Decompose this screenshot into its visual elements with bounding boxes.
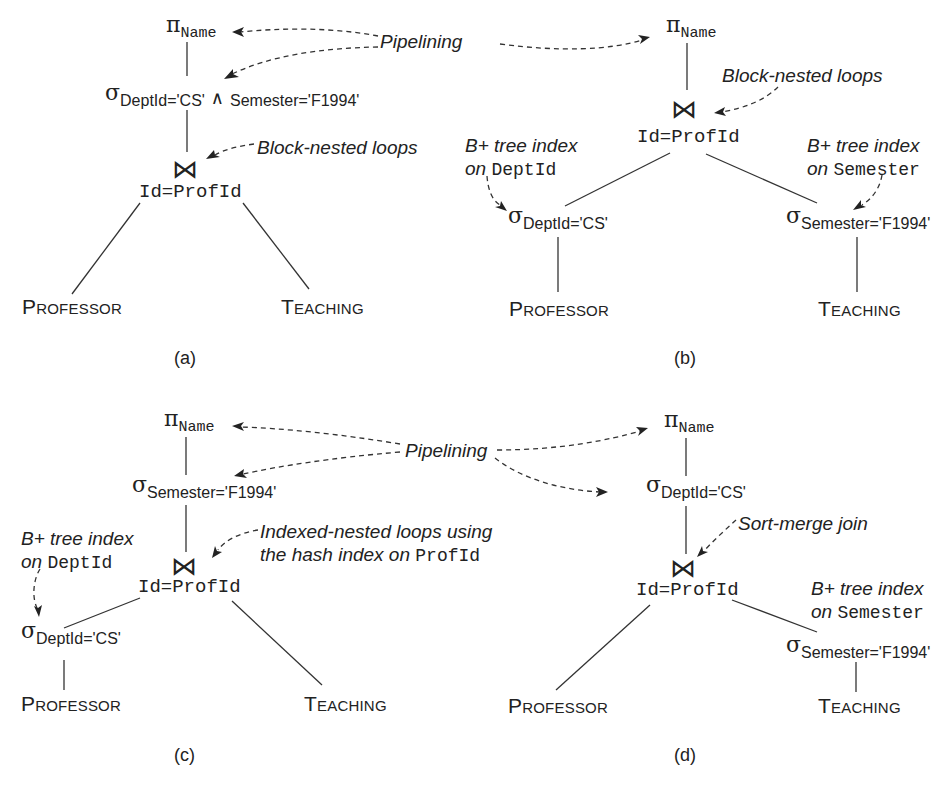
left-index-label: B+ tree index on DeptId: [465, 134, 578, 182]
left-index-label: B+ tree index on DeptId: [21, 527, 134, 575]
selection-cond-2: Semester='F1994': [230, 92, 359, 109]
relation-teaching: TEACHING: [304, 693, 387, 714]
join-condition: Id=ProfId: [636, 581, 739, 600]
pipelining-label: Pipelining: [405, 439, 487, 462]
panel-caption: (b): [674, 349, 696, 367]
right-index-label: B+ tree index on Semester: [807, 134, 920, 182]
projection-attr: Name: [680, 25, 716, 42]
left-selection-node: σDeptId='CS': [508, 205, 608, 227]
and-symbol: ∧: [211, 87, 224, 108]
selection-cond-1: DeptId='CS': [120, 92, 205, 109]
selection-symbol: σ: [105, 80, 120, 105]
relation-teaching: TEACHING: [281, 296, 364, 317]
selection-node: σDeptId='CS': [646, 474, 746, 496]
panel-caption: (a): [174, 349, 196, 367]
join-method-label: Block-nested loops: [722, 64, 883, 87]
panel-caption: (c): [174, 746, 195, 764]
right-selection-node: σSemester='F1994': [786, 205, 930, 227]
pipelining-label: Pipelining: [380, 30, 462, 53]
relation-teaching: TEACHING: [818, 298, 901, 319]
join-symbol-icon: ⋈: [670, 555, 696, 581]
projection-node: πName: [166, 14, 216, 36]
projection-node: πName: [666, 14, 716, 36]
right-selection-node: σSemester='F1994': [786, 634, 930, 656]
diagram-lines: [0, 0, 945, 785]
join-symbol-icon: ⋈: [172, 156, 198, 182]
join-method-label: Indexed-nested loops using the hash inde…: [260, 520, 492, 568]
relation-professor: PROFESSOR: [22, 296, 122, 317]
right-index-label: B+ tree index on Semester: [811, 577, 924, 625]
selection-node: σSemester='F1994': [132, 474, 276, 496]
relation-professor: PROFESSOR: [509, 298, 609, 319]
relation-teaching: TEACHING: [818, 695, 901, 716]
join-condition: Id=ProfId: [138, 578, 241, 597]
projection-symbol: π: [166, 12, 180, 37]
projection-symbol: π: [666, 12, 680, 37]
projection-attr: Name: [180, 25, 216, 42]
join-condition: Id=ProfId: [139, 183, 242, 202]
join-symbol-icon: ⋈: [671, 96, 697, 122]
selection-node: σDeptId='CS'∧Semester='F1994': [105, 82, 359, 104]
join-method-label: Block-nested loops: [257, 136, 418, 159]
projection-node: πName: [164, 408, 214, 430]
left-selection-node: σDeptId='CS': [21, 620, 121, 642]
relation-professor: PROFESSOR: [21, 693, 121, 714]
join-condition: Id=ProfId: [637, 128, 740, 147]
panel-caption: (d): [674, 746, 696, 764]
relation-professor: PROFESSOR: [508, 695, 608, 716]
join-method-label: Sort-merge join: [738, 512, 868, 535]
projection-node: πName: [664, 409, 714, 431]
